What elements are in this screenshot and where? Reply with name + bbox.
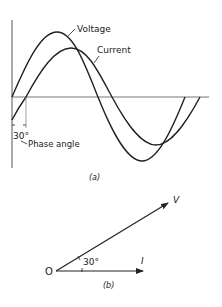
caption-b: (b) <box>103 281 114 290</box>
figure-canvas: Voltage Current 30° Phase angle (a) O 30… <box>0 0 222 307</box>
voltage-label: Voltage <box>77 24 111 34</box>
voltage-leader <box>68 29 75 36</box>
phase-angle-arrow <box>21 141 27 144</box>
origin-label: O <box>45 266 53 277</box>
voltage-phasor-label: V <box>173 195 180 205</box>
voltage-phasor <box>56 203 168 271</box>
caption-a: (a) <box>89 173 100 182</box>
angle-label: 30° <box>83 257 99 267</box>
phase-angle-value: 30° <box>13 131 29 141</box>
current-leader <box>94 56 99 63</box>
phasor-diagram: O 30° V I (b) <box>45 195 180 290</box>
current-label: Current <box>97 45 131 55</box>
phase-angle-label: Phase angle <box>28 139 80 149</box>
current-phasor-label: I <box>141 256 144 266</box>
waveform-diagram: Voltage Current 30° Phase angle (a) <box>12 20 209 182</box>
